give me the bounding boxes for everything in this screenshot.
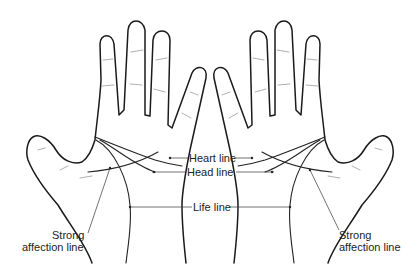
strong-affection-left-label-2: affection line [22, 241, 84, 253]
left-head-line [100, 140, 155, 172]
right-heart-line [238, 137, 325, 166]
left-hand [27, 21, 206, 263]
right-crease [222, 50, 382, 178]
heart-line-label: Heart line [189, 152, 236, 164]
strong-affection-right-label-1: Strong [339, 229, 371, 241]
right-head-line [265, 140, 320, 172]
strong-affection-left-label-1: Strong [52, 229, 84, 241]
life-line-label: Life line [193, 201, 231, 213]
right-hand [214, 21, 393, 263]
right-hand-outline [214, 21, 393, 263]
palm-lines-diagram: Heart line Head line Life line Strong af… [0, 0, 420, 264]
strong-affection-right-label-2: affection line [339, 241, 401, 253]
left-hand-outline [27, 21, 206, 263]
left-heart-line [95, 137, 182, 166]
left-life-line [96, 140, 131, 263]
head-line-label: Head line [187, 166, 233, 178]
left-crease [38, 50, 198, 178]
right-life-line [289, 140, 324, 263]
